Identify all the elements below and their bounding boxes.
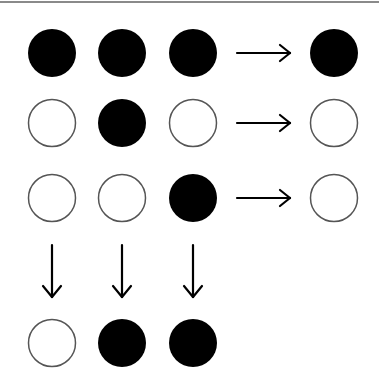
arrow-right-icon: [237, 45, 290, 61]
row-result-circle-2: [311, 100, 358, 147]
row-result-circle-3: [311, 175, 358, 222]
arrow-down-icon: [113, 245, 131, 297]
arrow-right-icon: [237, 115, 290, 131]
arrow-right-icon: [237, 190, 290, 206]
circle-grid-diagram: [0, 0, 379, 386]
filled-circle-r1c3: [169, 29, 217, 77]
filled-circle-r3c3: [169, 174, 217, 222]
column-result-circle-2: [98, 319, 146, 367]
empty-circle-r3c1: [29, 175, 76, 222]
column-result-circle-3: [169, 319, 217, 367]
empty-circle-r2c3: [170, 100, 217, 147]
filled-circle-r1c1: [28, 29, 76, 77]
empty-circle-r2c1: [29, 100, 76, 147]
column-result-circle-1: [29, 320, 76, 367]
arrow-down-icon: [184, 245, 202, 297]
row-result-circle-1: [310, 29, 358, 77]
empty-circle-r3c2: [99, 175, 146, 222]
arrow-down-icon: [43, 245, 61, 297]
filled-circle-r1c2: [98, 29, 146, 77]
filled-circle-r2c2: [98, 99, 146, 147]
